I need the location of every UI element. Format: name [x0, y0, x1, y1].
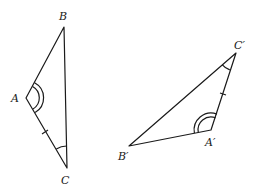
- label-c-prime: C′: [234, 39, 245, 52]
- angle-c-arc: [56, 146, 66, 149]
- angle-a-double-arc: [33, 87, 40, 110]
- label-a: A: [10, 92, 19, 105]
- label-b-prime: B′: [117, 150, 129, 163]
- label-c: C: [61, 174, 70, 187]
- label-a-prime: A′: [204, 136, 216, 149]
- congruent-triangles-diagram: B A C C′ B′ A′: [0, 0, 254, 190]
- triangle-a-prime-b-prime-c-prime: [129, 53, 236, 146]
- label-b: B: [58, 10, 67, 23]
- angle-c-prime-arc: [222, 65, 229, 70]
